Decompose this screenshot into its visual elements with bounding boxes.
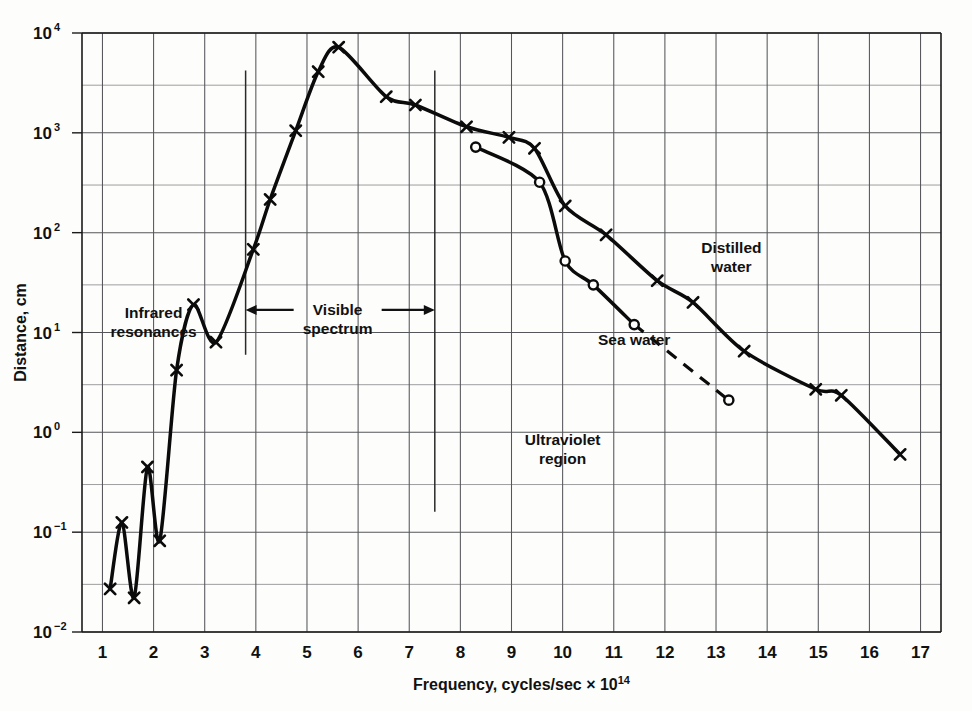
x-tick-label: 7: [405, 643, 414, 662]
x-tick-label: 5: [302, 643, 311, 662]
svg-text:resonances: resonances: [110, 323, 196, 340]
x-tick-label: 14: [758, 643, 777, 662]
marker-o: [724, 396, 733, 405]
svg-text:Ultraviolet: Ultraviolet: [525, 431, 601, 448]
sea-water-label: Sea water: [598, 331, 670, 348]
x-tick-label: 3: [200, 643, 209, 662]
svg-text:0: 0: [54, 420, 60, 432]
svg-text:2: 2: [54, 221, 60, 233]
x-tick-label: 4: [251, 643, 261, 662]
svg-text:1: 1: [54, 321, 60, 333]
x-tick-label: 15: [809, 643, 828, 662]
svg-text:10: 10: [33, 423, 52, 442]
x-tick-label: 9: [507, 643, 516, 662]
svg-text:Sea water: Sea water: [598, 331, 670, 348]
svg-text:Visible: Visible: [313, 301, 363, 318]
chart-background: [0, 0, 972, 711]
x-tick-label: 1: [98, 643, 107, 662]
x-tick-label: 2: [149, 643, 158, 662]
svg-text:10: 10: [33, 24, 52, 43]
figure-container: 1234567891011121314151617 10−210−1100101…: [0, 0, 972, 711]
marker-o: [561, 256, 570, 265]
x-tick-label: 17: [911, 643, 930, 662]
x-tick-label: 10: [553, 643, 572, 662]
marker-o: [589, 280, 598, 289]
marker-o: [630, 320, 639, 329]
svg-text:10: 10: [33, 324, 52, 343]
svg-text:10: 10: [33, 224, 52, 243]
marker-o: [471, 142, 480, 151]
svg-text:Distilled: Distilled: [701, 239, 761, 256]
svg-text:10: 10: [33, 623, 52, 642]
x-tick-label: 12: [655, 643, 674, 662]
svg-text:−2: −2: [54, 620, 67, 632]
svg-text:10: 10: [33, 124, 52, 143]
x-tick-label: 11: [605, 643, 623, 662]
x-axis-title: Frequency, cycles/sec × 1014: [413, 674, 631, 693]
x-tick-label: 8: [456, 643, 465, 662]
y-axis-title: Distance, cm: [12, 283, 29, 382]
svg-text:−1: −1: [54, 520, 67, 532]
x-tick-label: 13: [707, 643, 726, 662]
svg-text:3: 3: [54, 121, 60, 133]
svg-text:4: 4: [54, 21, 61, 33]
x-tick-label: 6: [353, 643, 362, 662]
svg-text:spectrum: spectrum: [303, 320, 373, 337]
x-tick-label: 16: [860, 643, 879, 662]
svg-text:Infrared: Infrared: [125, 304, 183, 321]
marker-o: [535, 178, 544, 187]
attenuation-vs-frequency-chart: 1234567891011121314151617 10−210−1100101…: [0, 0, 972, 711]
svg-text:10: 10: [33, 523, 52, 542]
svg-text:region: region: [539, 450, 586, 467]
svg-text:water: water: [710, 258, 752, 275]
